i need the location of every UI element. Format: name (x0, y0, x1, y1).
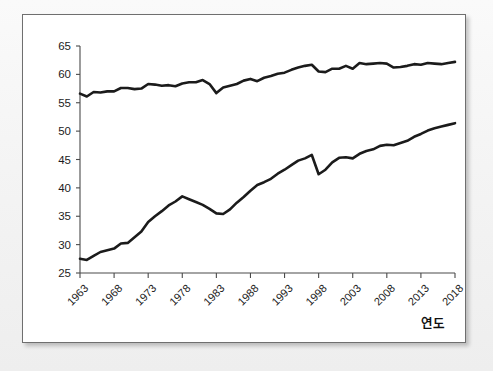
x-tick-label: 1988 (235, 282, 261, 308)
x-tick-label: 2008 (371, 282, 397, 308)
y-axis: 656055504540353025 (58, 40, 80, 279)
x-tick-label: 1978 (167, 282, 193, 308)
x-tick-label: 1963 (65, 282, 91, 308)
x-axis-title: 연도 (421, 316, 445, 331)
upper-series (80, 62, 455, 97)
y-tick-label: 35 (58, 210, 71, 222)
lower-series (80, 123, 455, 260)
x-axis: 1963196819731978198319881993199820032008… (65, 273, 465, 308)
x-tick-label: 1998 (303, 282, 329, 308)
y-tick-label: 50 (58, 125, 71, 137)
y-tick-label: 60 (58, 68, 71, 80)
y-tick-label: 30 (58, 239, 71, 251)
y-tick-label: 55 (58, 97, 71, 109)
chart-card: 656055504540353025 196319681973197819831… (22, 14, 466, 343)
screenshot-root: 656055504540353025 196319681973197819831… (0, 0, 493, 371)
y-tick-label: 25 (58, 267, 71, 279)
line-chart: 656055504540353025 196319681973197819831… (23, 15, 465, 342)
x-tick-label: 1968 (99, 282, 125, 308)
x-tick-label: 1993 (269, 282, 295, 308)
y-tick-label: 40 (58, 182, 71, 194)
x-tick-label: 1973 (133, 282, 159, 308)
x-tick-label: 2018 (440, 282, 465, 308)
series-group (80, 62, 455, 260)
y-tick-label: 65 (58, 40, 71, 52)
y-tick-label: 45 (58, 154, 71, 166)
x-tick-label: 1983 (201, 282, 227, 308)
x-tick-label: 2003 (337, 282, 363, 308)
x-tick-label: 2013 (406, 282, 432, 308)
